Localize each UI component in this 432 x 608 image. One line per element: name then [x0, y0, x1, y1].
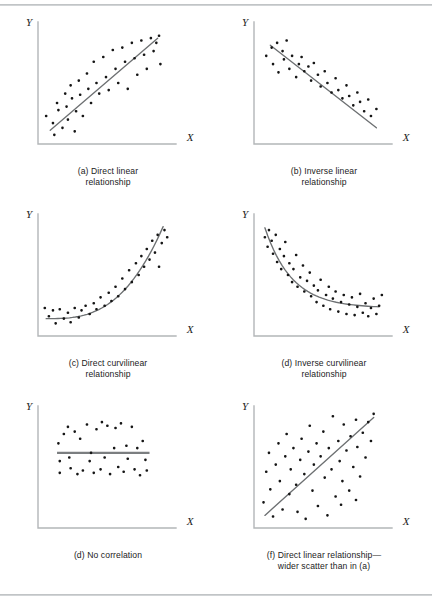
data-point: [69, 84, 72, 87]
data-point: [285, 39, 288, 42]
data-point: [308, 424, 311, 427]
data-point: [135, 447, 138, 450]
data-point: [311, 489, 314, 492]
data-point: [316, 505, 319, 508]
scatter-svg-f: Y X: [232, 398, 417, 548]
y-axis-label: Y: [25, 16, 33, 28]
data-point: [107, 291, 110, 294]
data-point: [347, 303, 350, 306]
data-point: [114, 427, 117, 430]
data-point: [266, 245, 269, 248]
data-point: [316, 289, 319, 292]
data-point: [140, 255, 143, 258]
data-point: [54, 322, 57, 325]
data-point: [356, 446, 359, 449]
data-point: [145, 68, 148, 71]
data-point: [337, 440, 340, 443]
data-point: [65, 105, 68, 108]
data-point: [155, 42, 158, 45]
data-point: [288, 493, 291, 496]
data-point: [309, 295, 312, 298]
data-point: [116, 82, 119, 85]
trend-line-b: [270, 45, 376, 128]
caption-a: (a) Direct linear relationship: [0, 166, 216, 189]
data-point: [350, 296, 353, 299]
data-point: [74, 110, 77, 113]
panel-c: Y X (c) Direct curvilinear relationship: [0, 206, 216, 381]
data-point: [345, 449, 348, 452]
x-axis-label: X: [401, 323, 410, 335]
data-point: [103, 456, 106, 459]
data-point: [163, 229, 166, 232]
data-point: [159, 63, 162, 66]
data-point: [77, 79, 80, 82]
data-point: [108, 473, 111, 476]
data-point: [66, 426, 69, 429]
caption-f: (f) Direct linear relationship— wider sc…: [216, 550, 432, 573]
data-points-c: [43, 229, 168, 325]
data-point: [361, 431, 364, 434]
data-point: [347, 95, 350, 98]
data-point: [319, 455, 322, 458]
data-point: [274, 234, 277, 237]
data-point: [89, 452, 92, 455]
data-point: [290, 281, 293, 284]
data-point: [377, 304, 380, 307]
data-point: [85, 423, 88, 426]
data-point: [107, 89, 110, 92]
data-point: [319, 85, 322, 88]
y-axis-label: Y: [25, 208, 33, 220]
data-point: [104, 76, 107, 79]
data-point: [349, 435, 352, 438]
y-axis-label: Y: [25, 400, 33, 412]
data-point: [92, 472, 95, 475]
data-point: [322, 430, 325, 433]
data-point: [322, 304, 325, 307]
data-point: [270, 46, 273, 49]
data-point: [122, 470, 125, 473]
data-point: [78, 437, 81, 440]
data-point: [121, 46, 124, 49]
data-point: [140, 39, 143, 42]
data-point: [296, 286, 299, 289]
data-point: [282, 255, 285, 258]
data-point: [342, 423, 345, 426]
data-point: [300, 56, 303, 59]
data-point: [331, 415, 334, 418]
data-point: [66, 118, 69, 121]
plot-area-c: Y X: [16, 206, 201, 356]
x-axis-label: X: [401, 515, 410, 527]
data-point: [100, 421, 103, 424]
panel-a: Y X (a) Direct linear relationship: [0, 14, 216, 189]
plot-area-b: Y X: [232, 14, 417, 164]
data-point: [307, 65, 310, 68]
data-point: [114, 68, 117, 71]
scatter-svg-e: Y X: [16, 398, 201, 548]
caption-line-1: (d) Inverse curvilinear: [228, 358, 420, 369]
plot-area-f: Y X: [232, 398, 417, 548]
data-point: [142, 265, 145, 268]
caption-line-1: (c) Direct curvilinear: [12, 358, 204, 369]
data-point: [153, 251, 156, 254]
data-point: [301, 264, 304, 267]
data-point: [351, 466, 354, 469]
trend-line-f: [264, 417, 373, 515]
axis-lines: [254, 22, 392, 144]
data-point: [300, 437, 303, 440]
data-point: [334, 290, 337, 293]
data-point: [116, 466, 119, 469]
data-point: [51, 122, 54, 125]
caption-line-1: (f) Direct linear relationship—: [228, 550, 420, 561]
data-point: [141, 440, 144, 443]
data-point: [369, 307, 372, 310]
data-point: [361, 311, 364, 314]
data-point: [354, 499, 357, 502]
data-point: [44, 115, 47, 118]
data-point: [356, 91, 359, 94]
panel-f: Y X (f) Direct linear relationship— wide…: [216, 398, 432, 573]
data-point: [116, 295, 119, 298]
data-point: [366, 421, 369, 424]
scatter-svg-b: Y X: [232, 14, 417, 164]
data-point: [278, 248, 281, 251]
data-points-b: [264, 39, 377, 117]
